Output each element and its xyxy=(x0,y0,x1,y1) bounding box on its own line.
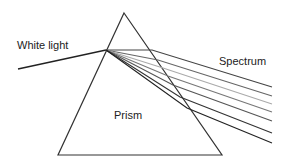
prism-dispersion-diagram xyxy=(0,0,287,164)
prism-triangle xyxy=(58,13,222,155)
white-light-label: White light xyxy=(17,40,68,51)
prism-label: Prism xyxy=(114,110,142,121)
white-light-ray xyxy=(18,50,106,69)
spectrum-label: Spectrum xyxy=(219,56,266,67)
